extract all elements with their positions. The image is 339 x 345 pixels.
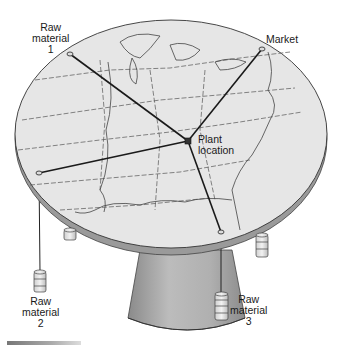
weight-raw-material-2 (34, 270, 46, 292)
hole-raw-material-3 (218, 230, 224, 234)
label-raw-material-2: Raw material 2 (22, 296, 59, 329)
label-plant-location: Plant location (198, 134, 234, 156)
label-line: 3 (230, 316, 267, 327)
label-market: Market (266, 34, 298, 45)
hole-raw-material-2 (36, 171, 42, 175)
weight-raw-material-1 (64, 228, 76, 240)
decorative-gradient-bar (7, 341, 81, 345)
label-line: 1 (32, 44, 69, 55)
weight-market (256, 233, 268, 257)
label-raw-material-1: Raw material 1 (32, 22, 69, 55)
plant-location-knot (185, 138, 191, 144)
label-raw-material-3: Raw material 3 (230, 294, 267, 327)
label-line: Market (266, 34, 298, 45)
label-line: 2 (22, 318, 59, 329)
label-line: location (198, 145, 234, 156)
weight-raw-material-3 (215, 292, 228, 320)
hole-market (259, 47, 265, 51)
